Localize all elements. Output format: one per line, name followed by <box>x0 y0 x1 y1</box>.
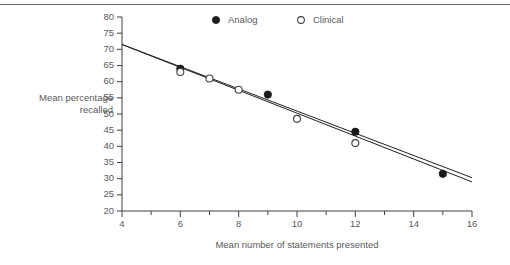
y-tick-label: 70 <box>103 43 114 54</box>
y-tick-label: 80 <box>103 11 114 22</box>
data-point-clinical <box>235 86 242 93</box>
x-tick-label: 4 <box>119 218 124 229</box>
y-axis-title-line2: recalled <box>80 104 113 115</box>
y-tick-label: 30 <box>103 172 114 183</box>
data-point-analog <box>352 128 359 135</box>
regression-line-analog <box>122 44 472 181</box>
x-tick-label: 16 <box>467 218 478 229</box>
y-axis-title-line1: Mean percentage <box>39 92 113 103</box>
data-point-analog <box>439 170 446 177</box>
legend-marker-analog-filled-circle-icon <box>212 16 219 23</box>
y-tick-label: 40 <box>103 140 114 151</box>
y-tick-label: 25 <box>103 188 114 199</box>
legend-label-clinical: Clinical <box>313 14 344 25</box>
legend-label-analog: Analog <box>228 14 258 25</box>
chart-figure: 20253035404550556065707580 46810121416 M… <box>0 0 510 265</box>
regression-lines <box>122 44 472 181</box>
x-axis-title: Mean number of statements presented <box>215 239 378 250</box>
y-tick-label: 65 <box>103 59 114 70</box>
data-point-analog <box>264 91 271 98</box>
x-tick-label: 12 <box>350 218 361 229</box>
y-tick-label: 35 <box>103 156 114 167</box>
x-axis-tick-labels: 46810121416 <box>119 218 477 229</box>
legend-marker-clinical-open-circle-icon <box>298 17 305 24</box>
x-tick-label: 14 <box>408 218 419 229</box>
x-tick-label: 6 <box>178 218 183 229</box>
data-point-clinical <box>294 115 301 122</box>
data-point-clinical <box>352 140 359 147</box>
x-tick-label: 8 <box>236 218 241 229</box>
y-tick-label: 60 <box>103 75 114 86</box>
data-point-clinical <box>177 68 184 75</box>
data-point-clinical <box>206 75 213 82</box>
y-tick-label: 20 <box>103 205 114 216</box>
legend: Analog Clinical <box>212 14 343 25</box>
y-tick-label: 45 <box>103 124 114 135</box>
x-tick-label: 10 <box>292 218 303 229</box>
x-axis-tickmarks <box>122 211 472 217</box>
y-axis-tickmarks <box>117 17 122 211</box>
y-tick-label: 75 <box>103 27 114 38</box>
scatter-plot-canvas: 20253035404550556065707580 46810121416 M… <box>0 0 510 265</box>
regression-line-clinical <box>122 44 472 177</box>
